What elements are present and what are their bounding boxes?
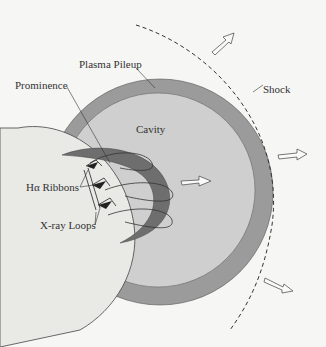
arrow-right-icon bbox=[278, 149, 307, 160]
label-ha-ribbons: Hα Ribbons bbox=[26, 181, 79, 193]
label-plasma-pileup: Plasma Pileup bbox=[79, 58, 142, 70]
label-cavity: Cavity bbox=[136, 123, 166, 135]
arrow-down-icon bbox=[264, 278, 293, 293]
arrow-up-icon bbox=[212, 33, 234, 55]
label-shock: Shock bbox=[263, 83, 291, 95]
label-xray-loops: X-ray Loops bbox=[40, 219, 96, 231]
label-prominence: Prominence bbox=[15, 79, 68, 91]
cme-diagram: Plasma Pileup Prominence Cavity Shock Hα… bbox=[0, 0, 326, 347]
